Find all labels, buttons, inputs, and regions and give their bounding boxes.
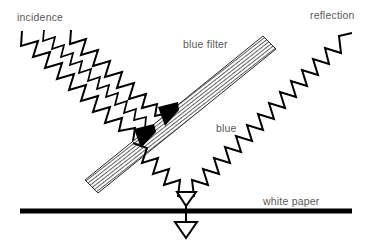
incident-light-waves bbox=[21, 30, 168, 141]
arrow-head-upper bbox=[177, 192, 196, 206]
arrow-head-lower bbox=[175, 222, 197, 238]
blue-filter-bar bbox=[85, 36, 276, 193]
label-reflection: reflection bbox=[310, 9, 355, 21]
diagram-root: incidence reflection blue filter blue wh… bbox=[0, 0, 372, 244]
label-blue: blue bbox=[216, 122, 237, 134]
optics-diagram: incidence reflection blue filter blue wh… bbox=[0, 0, 372, 244]
reflected-light-wave bbox=[186, 33, 352, 198]
label-white-paper: white paper bbox=[262, 195, 320, 207]
absorbed-light-arrow bbox=[175, 192, 197, 238]
label-blue-filter: blue filter bbox=[183, 38, 228, 50]
reflected-wave-path bbox=[186, 33, 352, 198]
label-incidence: incidence bbox=[17, 11, 63, 23]
